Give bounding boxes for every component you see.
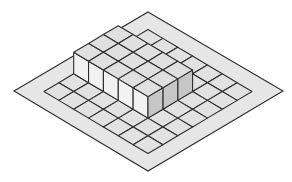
isometric-grid-diagram	[0, 0, 292, 182]
